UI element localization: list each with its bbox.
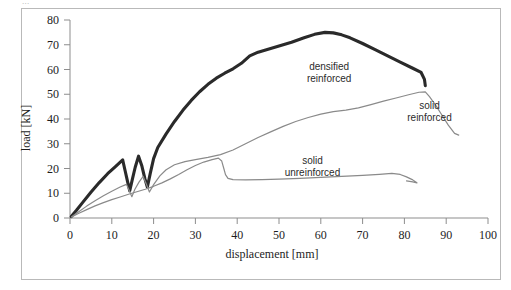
y-tick-label: 20 xyxy=(47,162,59,176)
x-tick-label: 100 xyxy=(479,228,497,242)
y-tick-label: 10 xyxy=(47,186,59,200)
y-tick-label: 50 xyxy=(47,87,59,101)
x-axis-title: displacement [mm] xyxy=(226,247,319,261)
series-curves xyxy=(71,32,458,217)
x-tick-label: 60 xyxy=(315,228,327,242)
series-solid-reinforced xyxy=(72,92,459,217)
figure-container: ... 01020304050607080 load [kN] 01020304… xyxy=(0,0,511,290)
series-densified-reinforced xyxy=(71,32,425,216)
annotation-densified-reinforced: reinforced xyxy=(307,73,351,84)
series-annotations: densifiedreinforcedsolidreinforcedsolidu… xyxy=(285,61,452,178)
x-tick-label: 0 xyxy=(67,228,73,242)
load-displacement-chart: 01020304050607080 load [kN] 010203040506… xyxy=(0,0,511,290)
y-tick-label: 30 xyxy=(47,137,59,151)
x-tick-label: 30 xyxy=(189,228,201,242)
x-tick-label: 70 xyxy=(357,228,369,242)
y-tick-label: 70 xyxy=(47,38,59,52)
y-axis-title: load [kN] xyxy=(19,105,33,151)
y-axis: 01020304050607080 load [kN] xyxy=(19,13,70,225)
y-tick-label: 60 xyxy=(47,63,59,77)
x-tick-label: 40 xyxy=(231,228,243,242)
x-axis: 0102030405060708090100 displacement [mm] xyxy=(67,218,497,261)
y-tick-label: 0 xyxy=(53,211,59,225)
y-tick-label: 80 xyxy=(47,13,59,27)
annotation-solid-reinforced: solid xyxy=(419,100,440,111)
x-tick-label: 50 xyxy=(273,228,285,242)
y-tick-marks xyxy=(64,20,70,218)
x-tick-label: 10 xyxy=(106,228,118,242)
y-tick-labels: 01020304050607080 xyxy=(47,13,59,225)
annotation-solid-reinforced: reinforced xyxy=(407,112,451,123)
annotation-solid-unreinforced: solid xyxy=(302,155,323,166)
x-tick-label: 90 xyxy=(440,228,452,242)
x-tick-marks xyxy=(70,218,488,224)
y-tick-label: 40 xyxy=(47,112,59,126)
annotation-solid-unreinforced: unreinforced xyxy=(285,167,341,178)
annotation-densified-reinforced: densified xyxy=(309,61,349,72)
x-tick-label: 80 xyxy=(398,228,410,242)
x-tick-labels: 0102030405060708090100 xyxy=(67,228,497,242)
x-tick-label: 20 xyxy=(148,228,160,242)
